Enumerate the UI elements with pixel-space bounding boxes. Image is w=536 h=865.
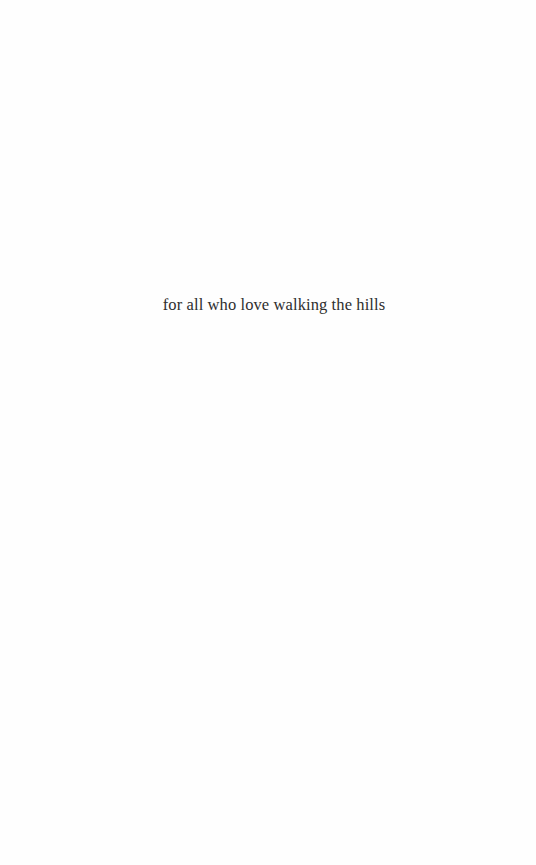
- book-page: for all who love walking the hills: [0, 0, 536, 865]
- dedication-text: for all who love walking the hills: [0, 295, 536, 315]
